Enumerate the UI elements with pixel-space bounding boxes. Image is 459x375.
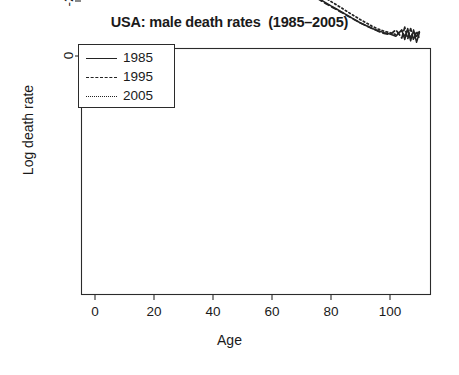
legend-label: 1995 xyxy=(123,69,153,84)
legend-label: 2005 xyxy=(123,88,153,103)
legend-label: 1985 xyxy=(123,50,153,65)
series-line-1995 xyxy=(95,0,420,40)
legend-line-swatch xyxy=(86,96,117,97)
legend: 198519952005 xyxy=(78,44,175,108)
legend-line-swatch xyxy=(86,58,117,59)
series-line-1985 xyxy=(95,0,420,42)
series-line-2005 xyxy=(95,0,420,37)
legend-line-swatch xyxy=(86,77,117,78)
legend-item-2005: 2005 xyxy=(79,87,176,107)
legend-item-1995: 1995 xyxy=(79,68,176,88)
figure-canvas: USA: male death rates (1985–2005) Log de… xyxy=(0,0,459,375)
plot-area xyxy=(0,0,459,375)
legend-item-1985: 1985 xyxy=(79,49,176,69)
series-lines xyxy=(95,0,420,42)
